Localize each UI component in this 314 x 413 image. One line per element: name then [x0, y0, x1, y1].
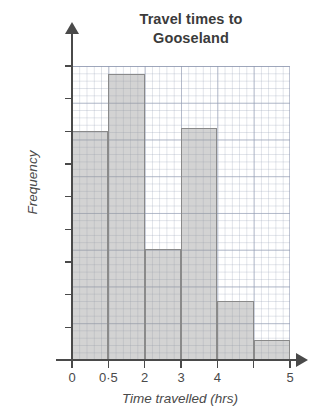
y-axis-tick: [65, 163, 73, 165]
x-axis-arrow-icon: [296, 353, 308, 367]
x-axis-tick: [289, 360, 291, 368]
y-axis-tick: [65, 131, 73, 133]
x-axis-tick-label: 3: [161, 371, 201, 384]
x-axis-title: Time travelled (hrs): [60, 391, 300, 406]
histogram-bar: [145, 249, 181, 360]
y-axis-tick: [65, 327, 73, 329]
chart-title: Travel times to Gooseland: [96, 10, 286, 47]
x-axis-tick: [108, 360, 110, 368]
y-axis-tick: [65, 261, 73, 263]
histogram-bar: [254, 340, 290, 360]
y-axis-tick: [65, 294, 73, 296]
x-axis-tick-label: 0: [52, 371, 92, 384]
y-axis-tick: [65, 229, 73, 231]
x-axis-tick: [180, 360, 182, 368]
chart-title-line-1: Travel times to: [96, 10, 286, 29]
x-axis-tick: [144, 360, 146, 368]
x-axis-tick-label: 2: [125, 371, 165, 384]
x-axis-tick-label: 5: [270, 371, 310, 384]
histogram-bar: [108, 74, 144, 360]
x-axis-tick: [253, 360, 255, 368]
x-axis-tick: [71, 360, 73, 368]
histogram-figure: Travel times to Gooseland 02040608010012…: [0, 0, 314, 413]
bar-series: [72, 66, 290, 360]
x-axis-line: [56, 359, 298, 361]
x-axis-tick: [217, 360, 219, 368]
histogram-bar: [217, 301, 253, 360]
y-axis-tick: [65, 98, 73, 100]
x-axis-tick-label: 4: [197, 371, 237, 384]
x-axis-tick-label: 0·5: [88, 371, 128, 384]
chart-title-line-2: Gooseland: [96, 29, 286, 48]
y-axis-title: Frequency: [25, 123, 40, 243]
plot-area: [72, 66, 290, 360]
y-axis-tick: [65, 196, 73, 198]
histogram-bar: [181, 128, 217, 360]
y-axis-tick: [65, 65, 73, 67]
y-axis-arrow-icon: [65, 22, 79, 34]
histogram-bar: [72, 131, 108, 360]
